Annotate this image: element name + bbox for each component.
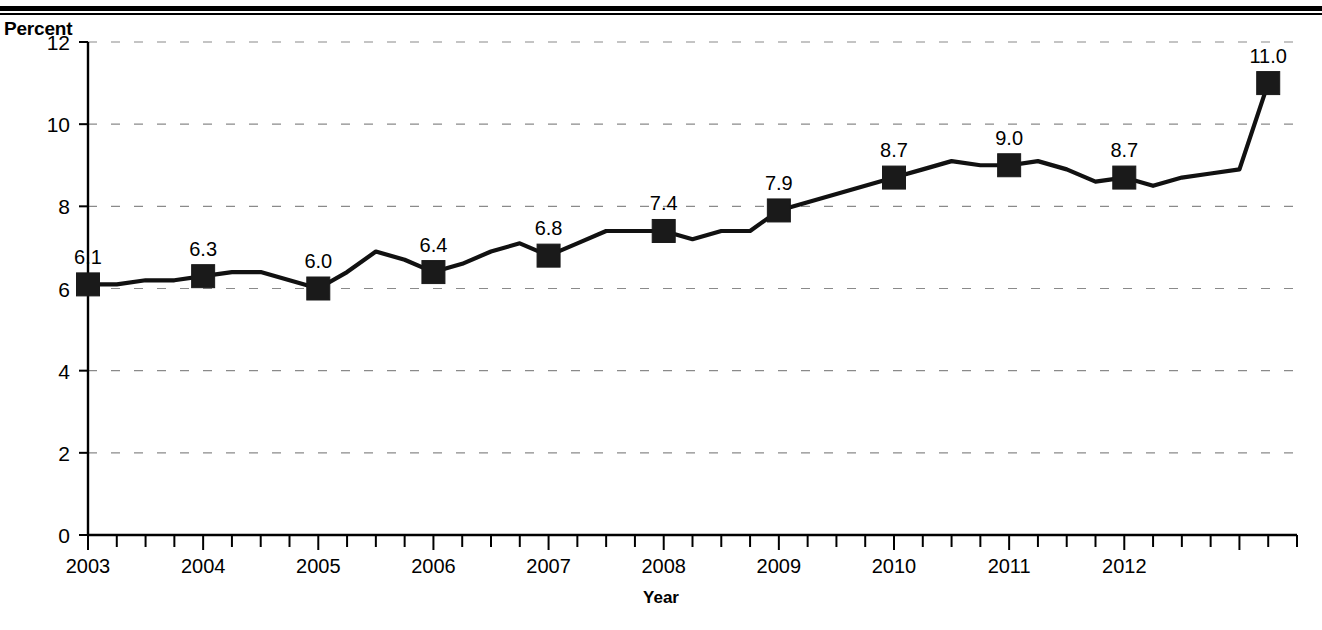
x-tick-label: 2005 xyxy=(296,555,341,575)
y-tick-label: 6 xyxy=(58,278,70,301)
data-point-label: 11.0 xyxy=(1249,45,1286,67)
y-tick-label: 4 xyxy=(58,360,70,383)
data-point-label: 8.7 xyxy=(880,139,908,161)
x-axis-title: Year xyxy=(0,588,1322,608)
data-markers-group xyxy=(77,72,1280,300)
data-point-label: 6.1 xyxy=(74,246,102,268)
x-tick-label: 2012 xyxy=(1102,555,1147,575)
data-point-marker xyxy=(767,199,790,222)
x-tick-label: 2004 xyxy=(181,555,226,575)
data-point-label: 6.0 xyxy=(304,250,332,272)
data-point-marker xyxy=(1257,72,1280,95)
y-tick-label: 2 xyxy=(58,442,70,465)
y-tick-label: 8 xyxy=(58,195,70,218)
x-tick-label: 2009 xyxy=(757,555,802,575)
data-point-marker xyxy=(537,244,560,267)
x-tick-label: 2006 xyxy=(411,555,456,575)
y-axis-title: Percent xyxy=(4,18,72,40)
data-point-label: 6.4 xyxy=(420,234,448,256)
x-tick-label: 2008 xyxy=(641,555,686,575)
data-point-marker xyxy=(652,219,675,242)
x-tick-label: 2003 xyxy=(66,555,111,575)
data-point-marker xyxy=(307,277,330,300)
data-point-marker xyxy=(422,261,445,284)
data-point-marker xyxy=(998,154,1021,177)
y-tick-labels-group: 024681012 xyxy=(47,31,71,547)
x-tick-label: 2007 xyxy=(526,555,571,575)
data-point-label: 9.0 xyxy=(995,127,1023,149)
data-point-marker xyxy=(1113,166,1136,189)
x-tick-labels-group: 2003200420052006200720082009201020112012 xyxy=(66,555,1147,575)
data-point-label: 6.8 xyxy=(535,217,563,239)
data-point-marker xyxy=(77,273,100,296)
series-line-group xyxy=(88,83,1268,288)
x-tick-label: 2010 xyxy=(872,555,917,575)
y-tick-label: 0 xyxy=(58,524,70,547)
x-tick-label: 2011 xyxy=(988,555,1031,575)
top-rule-thick xyxy=(0,6,1322,11)
data-point-label: 7.9 xyxy=(765,172,793,194)
line-chart-plot: 024681012 200320042005200620072008200920… xyxy=(0,0,1322,575)
top-rule-thin xyxy=(0,13,1322,15)
data-point-marker xyxy=(192,265,215,288)
chart-figure: Percent 024681012 2003200420052006200720… xyxy=(0,0,1322,630)
data-point-marker xyxy=(883,166,906,189)
data-point-label: 6.3 xyxy=(189,238,217,260)
gridlines-group xyxy=(88,42,1297,453)
data-point-label: 7.4 xyxy=(650,192,678,214)
x-tick-marks-group xyxy=(88,535,1297,550)
series-line xyxy=(88,83,1268,288)
y-tick-label: 10 xyxy=(47,113,70,136)
data-point-label: 8.7 xyxy=(1110,139,1138,161)
